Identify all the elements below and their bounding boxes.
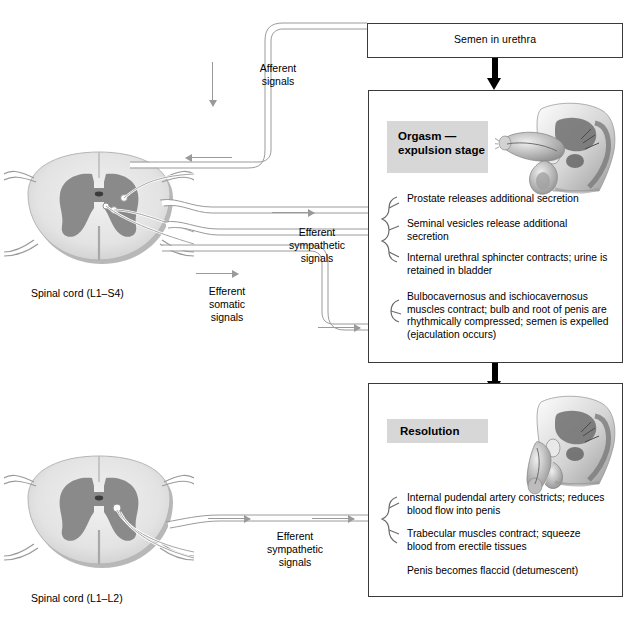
spinal-cord-cross-section-icon-lower <box>4 452 194 577</box>
spinal-cord-cross-section-icon <box>4 148 194 273</box>
box-semen-label: Semen in urethra <box>368 33 622 45</box>
curly-brace-icon-group-2 <box>381 298 403 324</box>
orgasm-item-2: Internal urethral sphincter contracts; u… <box>407 252 617 277</box>
spinal-cord-caption-upper: Spinal cord (L1–S4) <box>31 287 124 299</box>
box-resolution: Resolution Internal pudendal artery cons… <box>368 383 623 597</box>
male-pelvis-sagittal-section-icon <box>495 99 620 204</box>
box-semen-in-urethra: Semen in urethra <box>367 23 623 58</box>
figure-canvas: Spinal cord (L1–S4) Spinal cord (L1–L2) <box>0 0 640 618</box>
label-efferent-somatic: Efferent somatic signals <box>188 285 266 324</box>
label-efferent-sympathetic-upper: Efferent sympathetic signals <box>272 226 362 265</box>
label-afferent-signals: Afferent signals <box>240 62 316 88</box>
male-pelvis-sagittal-section-icon-resolution <box>495 392 620 497</box>
orgasm-item-1: Seminal vesicles release additional secr… <box>407 218 617 243</box>
orgasm-item-0: Prostate releases additional secretion <box>407 193 617 206</box>
resolution-item-2: Penis becomes flaccid (detumescent) <box>407 565 619 578</box>
curly-brace-icon-resolution <box>380 494 402 546</box>
curly-brace-icon-group-1 <box>380 194 402 264</box>
resolution-item-1: Trabecular muscles contract; squeeze blo… <box>407 528 619 553</box>
stage-tag-resolution: Resolution <box>387 419 488 443</box>
stage-tag-orgasm: Orgasm — expulsion stage <box>387 121 488 173</box>
label-efferent-sympathetic-lower: Efferent sympathetic signals <box>250 530 340 569</box>
orgasm-item-3: Bulbocavernosus and ischiocavernosus mus… <box>407 291 619 341</box>
thick-down-arrow-icon-to-orgasm <box>490 58 499 90</box>
spinal-cord-caption-lower: Spinal cord (L1–L2) <box>31 592 123 604</box>
box-orgasm-expulsion-stage: Orgasm — expulsion stage <box>368 90 623 363</box>
resolution-item-0: Internal pudendal artery constricts; red… <box>407 492 619 517</box>
